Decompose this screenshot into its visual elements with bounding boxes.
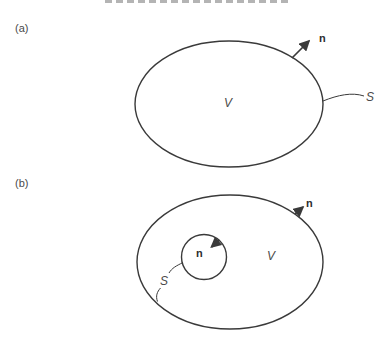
panel-b-inner-normal-arrow <box>212 240 220 247</box>
panel-b-tag: (b) <box>15 177 28 189</box>
panel-b-inner-normal-label: n <box>196 247 203 259</box>
figure-page: (a) V n S (b) V n n <box>0 0 390 343</box>
panel-b-cavity-circle <box>182 235 227 280</box>
panel-a-surface-label: S <box>366 90 374 104</box>
divergence-theorem-figure: (a) V n S (b) V n n <box>0 0 390 343</box>
panel-a-surface-leader-line <box>323 94 364 101</box>
panel-b-outer-normal-label: n <box>306 197 313 209</box>
panel-b-outer-normal-arrow <box>295 207 303 214</box>
panel-a-outward-normal-arrow <box>292 41 309 58</box>
panel-b-volume-label: V <box>267 249 276 263</box>
panel-b-surface-label: S <box>160 274 168 288</box>
panel-b: (b) V n n S <box>15 177 323 329</box>
panel-a: (a) V n S <box>15 22 374 167</box>
panel-b-surface-leader-to-outer <box>157 288 161 302</box>
panel-a-tag: (a) <box>15 22 28 34</box>
panel-b-outer-surface-ellipse <box>137 195 323 329</box>
panel-a-normal-label: n <box>319 32 326 44</box>
panel-a-volume-label: V <box>224 96 233 110</box>
panel-b-surface-leader-to-cavity <box>169 263 183 274</box>
